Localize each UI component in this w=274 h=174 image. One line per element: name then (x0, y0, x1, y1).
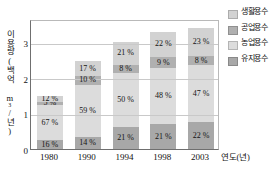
x-tick-label-1980: 1980 (40, 152, 58, 162)
y-axis-title-tail: /년) (4, 108, 14, 136)
legend-item-생활용수[interactable]: 생활용수 (228, 8, 274, 19)
bar-segment-1980-유지용수[interactable]: 16 % (37, 140, 63, 149)
bar-segment-label: 21 % (117, 49, 134, 57)
bar-segment-label: 10 % (79, 76, 96, 84)
x-tick-label-1998: 1998 (153, 152, 171, 162)
legend-swatch-유지용수 (228, 57, 238, 66)
legend-label: 유지용수 (241, 55, 267, 64)
bar-segment-1994-공업용수[interactable]: 8 % (113, 65, 139, 74)
bar-segment-label: 47 % (193, 90, 210, 98)
x-axis-title: 연도(년) (221, 152, 250, 162)
bar-segment-2003-농업용수[interactable]: 47 % (188, 65, 214, 122)
bar-segment-label: 22 % (193, 132, 210, 140)
legend-swatch-농업용수 (228, 41, 238, 50)
bar-segment-label: 23 % (193, 38, 210, 46)
chart-legend: 생활용수공업용수농업용수유지용수 (228, 8, 274, 70)
bar-segment-1994-유지용수[interactable]: 21 % (113, 127, 139, 149)
bar-1994[interactable]: 21 %8 %50 %21 % (113, 42, 139, 149)
legend-item-농업용수[interactable]: 농업용수 (228, 39, 274, 50)
bars-layer: 12 %5 %67 %16 %17 %10 %59 %14 %21 %8 %50… (31, 21, 218, 149)
bar-segment-2003-공업용수[interactable]: 8 % (188, 56, 214, 66)
bar-segment-1990-유지용수[interactable]: 14 % (75, 137, 101, 149)
bar-segment-label: 21 % (117, 134, 134, 142)
bar-segment-label: 22 % (155, 40, 172, 48)
bar-segment-label: 48 % (155, 92, 172, 100)
bar-segment-label: 14 % (79, 139, 96, 147)
bar-segment-label: 17 % (79, 65, 96, 73)
bar-segment-1994-농업용수[interactable]: 50 % (113, 73, 139, 126)
bar-segment-1990-생활용수[interactable]: 17 % (75, 61, 101, 76)
bar-segment-2003-생활용수[interactable]: 23 % (188, 28, 214, 56)
legend-swatch-공업용수 (228, 26, 238, 35)
gridline-2 (31, 79, 218, 80)
y-tick-label-0: 0 (24, 147, 29, 156)
bar-segment-2003-유지용수[interactable]: 22 % (188, 122, 214, 149)
bar-segment-1998-공업용수[interactable]: 9 % (150, 57, 176, 68)
bar-segment-label: 50 % (117, 96, 134, 104)
plot-area: 12 %5 %67 %16 %17 %10 %59 %14 %21 %8 %50… (30, 20, 219, 150)
legend-label: 공업용수 (241, 24, 267, 33)
bar-1998[interactable]: 22 %9 %48 %21 % (150, 31, 176, 149)
y-tick-label-1: 1 (24, 111, 29, 120)
bar-segment-label: 9 % (157, 59, 170, 67)
bar-segment-label: 67 % (42, 119, 59, 127)
gridline-3 (31, 44, 218, 45)
bar-segment-label: 8 % (195, 57, 208, 65)
x-tick-label-1990: 1990 (78, 152, 96, 162)
y-axis-title-text: 이용량(백억 m (4, 30, 14, 103)
y-tick-label-3: 3 (24, 40, 29, 49)
bar-segment-label: 16 % (42, 141, 59, 149)
bar-segment-label: 59 % (79, 107, 96, 115)
bar-segment-label: 8 % (119, 65, 132, 73)
bar-1990[interactable]: 17 %10 %59 %14 % (75, 61, 101, 149)
legend-swatch-생활용수 (228, 10, 238, 19)
legend-label: 농업용수 (241, 39, 267, 48)
legend-item-공업용수[interactable]: 공업용수 (228, 24, 274, 35)
bar-segment-1994-생활용수[interactable]: 21 % (113, 42, 139, 64)
legend-item-유지용수[interactable]: 유지용수 (228, 55, 274, 66)
gridline-1 (31, 115, 218, 116)
y-tick-label-2: 2 (24, 75, 29, 84)
water-usage-stacked-bar-chart: 이용량(백억 m3/년) 12 %5 %67 %16 %17 %10 %59 %… (0, 0, 274, 174)
bar-segment-1990-공업용수[interactable]: 10 % (75, 76, 101, 85)
bar-segment-label: 5 % (44, 102, 57, 105)
bar-2003[interactable]: 23 %8 %47 %22 % (188, 28, 214, 149)
bar-1980[interactable]: 12 %5 %67 %16 % (37, 96, 63, 149)
bar-segment-label: 21 % (155, 133, 172, 141)
y-axis-title: 이용량(백억 m3/년) (1, 16, 17, 150)
x-tick-label-1994: 1994 (116, 152, 134, 162)
legend-label: 생활용수 (241, 8, 267, 17)
bar-segment-1980-농업용수[interactable]: 67 % (37, 105, 63, 141)
bar-segment-1998-유지용수[interactable]: 21 % (150, 124, 176, 149)
bar-segment-1990-농업용수[interactable]: 59 % (75, 85, 101, 137)
x-tick-label-2003: 2003 (191, 152, 209, 162)
